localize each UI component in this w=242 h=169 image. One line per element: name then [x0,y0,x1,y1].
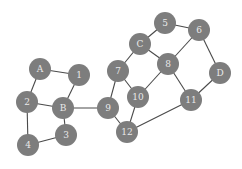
node-label: A [36,64,44,74]
node-label: 11 [185,95,196,105]
node-label: 2 [24,97,30,107]
node-1: 1 [68,64,90,86]
node-10: 10 [127,86,149,108]
node-B: B [52,97,74,119]
graph-diagram: A12B34791012C568D11 [0,0,242,169]
node-3: 3 [55,124,77,146]
node-9: 9 [97,97,119,119]
node-11: 11 [180,89,202,111]
node-5: 5 [154,12,176,34]
node-label: 4 [25,140,31,150]
node-label: 7 [115,66,121,76]
node-7: 7 [107,60,129,82]
node-label: D [216,68,223,78]
node-label: C [137,39,144,49]
node-label: 1 [76,70,82,80]
node-D: D [209,62,231,84]
node-6: 6 [188,19,210,41]
node-A: A [29,58,51,80]
node-label: 10 [132,92,144,102]
node-label: 8 [165,59,171,69]
node-12: 12 [116,121,138,143]
node-label: 6 [196,25,202,35]
graph-nodes: A12B34791012C568D11 [16,12,231,156]
node-label: 5 [162,18,168,28]
node-4: 4 [17,134,39,156]
node-label: B [60,103,67,113]
node-C: C [129,33,151,55]
node-label: 12 [121,127,132,137]
node-label: 3 [63,130,69,140]
node-2: 2 [16,91,38,113]
node-8: 8 [157,53,179,75]
node-label: 9 [105,103,111,113]
